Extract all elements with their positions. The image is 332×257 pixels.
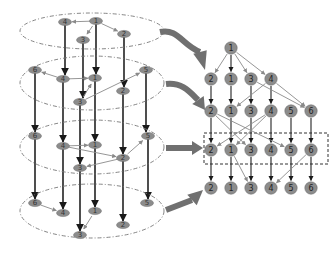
graph-node: 5 bbox=[140, 66, 153, 74]
node-label: 1 bbox=[228, 44, 233, 53]
node-label: 3 bbox=[78, 98, 82, 106]
graph-node: 2 bbox=[205, 144, 217, 156]
node-label: 2 bbox=[122, 30, 126, 38]
graph-node: 6 bbox=[305, 105, 317, 117]
node-label: 2 bbox=[121, 87, 125, 95]
graph-node: 6 bbox=[305, 144, 317, 156]
graph-node: 2 bbox=[117, 87, 130, 95]
graph-node: 2 bbox=[117, 154, 130, 162]
node-label: 4 bbox=[268, 75, 273, 84]
node-label: 4 bbox=[63, 18, 68, 26]
diagram-canvas: 4132641523641523641523 12134213456213456… bbox=[0, 0, 332, 257]
dependency-edge bbox=[215, 54, 227, 73]
intra-layer-edge bbox=[83, 84, 91, 97]
node-label: 3 bbox=[78, 231, 82, 239]
graph-node: 4 bbox=[57, 75, 70, 83]
node-label: 6 bbox=[33, 66, 38, 74]
intra-layer-edge bbox=[42, 72, 58, 77]
graph-node: 3 bbox=[245, 73, 257, 85]
graph-node: 3 bbox=[74, 164, 87, 172]
node-label: 1 bbox=[228, 146, 233, 155]
node-label: 1 bbox=[228, 107, 233, 116]
graph-node: 3 bbox=[245, 144, 257, 156]
graph-node: 6 bbox=[305, 182, 317, 194]
intra-layer-edge bbox=[69, 145, 88, 146]
node-label: 2 bbox=[208, 75, 213, 84]
node-label: 5 bbox=[145, 199, 149, 207]
node-label: 2 bbox=[121, 154, 125, 162]
arrow-layer-1 bbox=[160, 31, 207, 70]
graph-node: 5 bbox=[142, 132, 155, 140]
graph-node: 4 bbox=[265, 144, 277, 156]
node-label: 3 bbox=[248, 184, 253, 193]
intra-layer-edge bbox=[101, 24, 117, 32]
node-label: 5 bbox=[146, 132, 150, 140]
node-label: 3 bbox=[248, 107, 253, 116]
node-label: 1 bbox=[93, 207, 97, 215]
node-label: 3 bbox=[81, 36, 85, 44]
node-label: 2 bbox=[121, 221, 125, 229]
graph-node: 2 bbox=[117, 221, 130, 229]
transformation-arrows bbox=[160, 31, 207, 210]
node-label: 4 bbox=[268, 146, 273, 155]
node-label: 5 bbox=[288, 184, 293, 193]
intra-layer-edge bbox=[69, 78, 88, 79]
node-label: 1 bbox=[94, 17, 98, 25]
graph-node: 2 bbox=[205, 73, 217, 85]
graph-node: 6 bbox=[29, 66, 42, 74]
graph-node: 5 bbox=[285, 144, 297, 156]
graph-node: 3 bbox=[77, 36, 90, 44]
node-label: 5 bbox=[144, 66, 148, 74]
graph-node: 2 bbox=[205, 105, 217, 117]
graph-node: 1 bbox=[89, 207, 102, 215]
unrolled-dependency-graph: 12134213456213456213456 bbox=[204, 42, 328, 194]
node-label: 3 bbox=[248, 75, 253, 84]
dependency-edge bbox=[257, 82, 304, 107]
graph-node: 1 bbox=[89, 141, 102, 149]
graph-node: 5 bbox=[141, 199, 154, 207]
node-label: 1 bbox=[228, 184, 233, 193]
graph-node: 1 bbox=[225, 144, 237, 156]
intra-layer-edge bbox=[87, 159, 117, 166]
node-label: 1 bbox=[228, 75, 233, 84]
layer-4: 641523 bbox=[20, 184, 164, 239]
graph-node: 1 bbox=[225, 182, 237, 194]
arrow-layer-2 bbox=[166, 84, 205, 110]
node-label: 2 bbox=[208, 184, 213, 193]
graph-node: 3 bbox=[245, 105, 257, 117]
node-label: 4 bbox=[61, 75, 66, 83]
graph-node: 4 bbox=[57, 142, 70, 150]
intra-layer-edge bbox=[84, 216, 92, 229]
graph-node: 4 bbox=[265, 73, 277, 85]
intra-layer-edge bbox=[41, 205, 57, 211]
node-label: 4 bbox=[61, 209, 66, 217]
intra-layer-edge bbox=[128, 141, 143, 154]
graph-node: 3 bbox=[74, 231, 87, 239]
graph-node: 4 bbox=[57, 209, 70, 217]
graph-node: 5 bbox=[285, 105, 297, 117]
layer-ellipse bbox=[20, 56, 164, 110]
graph-node: 6 bbox=[29, 132, 42, 140]
node-label: 5 bbox=[288, 107, 293, 116]
arrow-layer-3 bbox=[166, 141, 203, 155]
node-label: 6 bbox=[33, 199, 38, 207]
graph-node: 1 bbox=[225, 105, 237, 117]
node-label: 2 bbox=[208, 146, 213, 155]
graph-node: 6 bbox=[29, 199, 42, 207]
graph-node: 1 bbox=[89, 74, 102, 82]
node-label: 2 bbox=[208, 107, 213, 116]
layer-1: 4132 bbox=[20, 13, 164, 49]
node-label: 6 bbox=[308, 146, 313, 155]
dependency-edge bbox=[217, 115, 265, 146]
node-label: 4 bbox=[268, 184, 273, 193]
node-label: 6 bbox=[33, 132, 38, 140]
node-label: 1 bbox=[93, 141, 97, 149]
node-label: 6 bbox=[308, 184, 313, 193]
node-label: 4 bbox=[61, 142, 66, 150]
intra-layer-edge bbox=[87, 26, 93, 34]
graph-node: 4 bbox=[265, 105, 277, 117]
node-label: 4 bbox=[268, 107, 273, 116]
graph-node: 5 bbox=[285, 182, 297, 194]
graph-node: 1 bbox=[225, 73, 237, 85]
node-label: 6 bbox=[308, 107, 313, 116]
